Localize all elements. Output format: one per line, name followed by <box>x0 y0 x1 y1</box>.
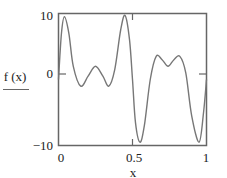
x-tick-label-mid: 0.5 <box>126 150 142 165</box>
y-tick-label-mid: 0 <box>47 66 54 81</box>
x-tick-label-left: 0 <box>58 150 65 165</box>
y-tick-label-bottom: −10 <box>33 138 53 153</box>
x-tick-label-right: 1 <box>203 150 210 165</box>
chart: 10 0 −10 0 0.5 1 f (x) x <box>0 0 227 178</box>
y-axis-label: f (x) <box>4 69 27 84</box>
x-axis-label: x <box>130 165 137 178</box>
data-curve <box>59 15 207 142</box>
y-tick-label-top: 10 <box>40 8 53 23</box>
